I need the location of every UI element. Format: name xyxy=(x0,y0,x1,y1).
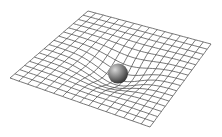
diagram-canvas xyxy=(0,0,222,137)
warped-grid xyxy=(0,0,222,137)
mass-sphere xyxy=(108,64,128,84)
